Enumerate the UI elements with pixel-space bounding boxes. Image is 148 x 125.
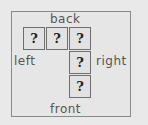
label-left: left	[14, 54, 35, 68]
grid-cell: ?	[69, 27, 91, 50]
grid-cell: ?	[46, 27, 68, 50]
label-front: front	[50, 102, 81, 116]
label-right: right	[96, 54, 127, 68]
label-back: back	[50, 12, 81, 26]
grid-cell: ?	[69, 51, 91, 74]
grid-cell: ?	[23, 27, 45, 50]
grid-cell: ?	[69, 75, 91, 98]
